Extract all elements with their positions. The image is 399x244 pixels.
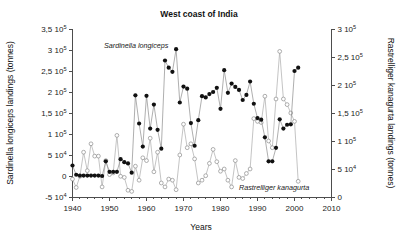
data-point [163,58,167,62]
y-left-ticklabel: 2,5 105 [41,66,66,76]
data-point [145,159,149,163]
data-point [170,70,174,74]
data-point [141,156,145,160]
data-point [204,174,208,178]
data-point [196,181,200,185]
data-point [185,87,189,91]
series-a-markers [70,47,300,178]
data-point [115,134,119,138]
data-point [174,188,178,192]
series-rastrelliger-kanagurta [71,50,301,194]
data-point [211,148,215,152]
data-point [89,173,93,177]
y-left-ticklabel: 1 105 [48,129,67,139]
data-point [263,94,267,98]
y-right-ticklabel: 0 [338,193,343,202]
series-b-annotation: Rastrelliger kanagurta [239,183,309,192]
data-point [119,157,123,161]
data-point [126,161,130,165]
data-point [282,97,286,101]
x-axis: 19401950196019701980199020002010 [64,197,341,213]
data-point [122,160,126,164]
data-point [252,117,256,121]
data-point [178,100,182,104]
data-point [215,160,219,164]
series-b-line [73,51,299,191]
data-point [293,120,297,124]
data-point [204,95,208,99]
data-point [100,185,104,189]
data-point [200,94,204,98]
data-point [285,123,289,127]
chart-canvas: West coast of India 3,5 1053 1052,5 1052… [0,0,399,244]
y-right-ticklabel: 2,5 105 [338,52,363,62]
data-point [174,47,178,51]
data-point [148,136,152,140]
data-point [196,118,200,122]
data-point [278,50,282,54]
data-point [107,170,111,174]
data-point [100,174,104,178]
data-point [85,169,89,173]
y-right-ticklabel: 1 105 [338,136,357,146]
data-point [159,147,163,151]
data-point [163,185,167,189]
data-point [267,159,271,163]
x-ticklabel: 1950 [101,204,119,213]
data-point [115,170,119,174]
data-point [292,69,296,73]
data-point [71,177,75,181]
y-axis-right-ticks [332,29,336,197]
data-point [230,185,234,189]
y-axis-right-label: Rastrelliger kanagurta landings (tonnes) [386,38,396,189]
data-point [233,85,237,89]
data-point [130,171,134,175]
data-point [104,159,108,163]
x-ticklabel: 1980 [212,204,230,213]
data-point [193,144,197,148]
data-point [193,157,197,161]
x-ticklabel: 1940 [64,204,82,213]
data-point [119,174,123,178]
y-left-ticklabel: 0 [62,172,67,181]
data-point [85,173,89,177]
data-point [237,88,241,92]
data-point [130,190,134,194]
data-point [215,86,219,90]
data-point [226,178,230,182]
data-point [255,116,259,120]
data-point [289,122,293,126]
data-point [233,159,237,163]
y-right-ticklabel: 2 105 [338,80,357,90]
data-point [226,91,230,95]
series-a-annotation: Sardinella longiceps [104,41,169,50]
data-point [156,128,160,132]
data-point [97,154,101,158]
data-point [82,173,86,177]
data-point [281,126,285,130]
data-point [74,186,78,190]
data-point [185,146,189,150]
data-point [159,181,163,185]
x-ticklabel: 2010 [323,204,341,213]
data-point [89,142,93,146]
data-point [93,154,97,158]
data-point [259,118,263,122]
data-point [144,94,148,98]
data-point [200,178,204,182]
y-left-ticklabel: 1,5 105 [41,108,66,118]
data-point [270,159,274,163]
data-point [133,93,137,97]
y-right-ticklabel: 3 105 [338,24,357,34]
data-point [152,170,156,174]
data-point [111,170,115,174]
data-point [70,163,74,167]
y-left-ticklabel: 5 104 [48,150,67,160]
data-point [222,68,226,72]
data-point [156,150,160,154]
x-ticklabel: 1990 [249,204,267,213]
y-right-ticklabel: 1,5 105 [338,108,363,118]
data-point [241,177,245,181]
data-point [248,167,252,171]
data-point [178,153,182,157]
